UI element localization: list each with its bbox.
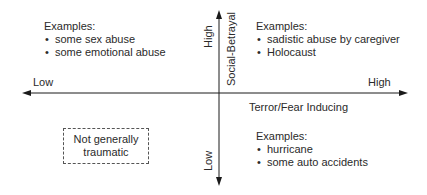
y-axis-title: Social-Betrayal	[225, 12, 238, 86]
x-axis-high-label: High	[368, 76, 391, 89]
examples-heading: Examples:	[256, 20, 400, 33]
x-axis-low-label: Low	[33, 76, 53, 89]
list-item: some sex abuse	[44, 33, 166, 46]
box-line-2: traumatic	[74, 146, 139, 159]
arrow-down-icon	[216, 177, 222, 186]
y-axis-high-label: High	[202, 25, 215, 48]
arrow-up-icon	[216, 10, 222, 19]
quadrant-top-left: Examples: some sex abuse some emotional …	[44, 20, 166, 59]
list-item: some auto accidents	[256, 156, 368, 169]
examples-heading: Examples:	[44, 20, 166, 33]
quadrant-bottom-right: Examples: hurricane some auto accidents	[256, 130, 368, 169]
list-item: some emotional abuse	[44, 46, 166, 59]
list-item: Holocaust	[256, 46, 400, 59]
list-item: sadistic abuse by caregiver	[256, 33, 400, 46]
x-axis-title: Terror/Fear Inducing	[249, 101, 348, 114]
arrow-right-icon	[399, 90, 408, 96]
y-axis-low-label: Low	[202, 151, 215, 171]
not-traumatic-box: Not generally traumatic	[63, 128, 149, 164]
quadrant-top-right: Examples: sadistic abuse by caregiver Ho…	[256, 20, 400, 59]
box-line-1: Not generally	[74, 133, 139, 146]
arrow-left-icon	[22, 90, 31, 96]
list-item: hurricane	[256, 143, 368, 156]
examples-heading: Examples:	[256, 130, 368, 143]
